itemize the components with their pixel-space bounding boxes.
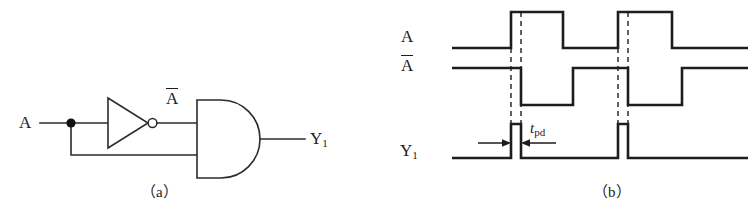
caption-a: （a）: [141, 180, 178, 201]
tpd-arrow-right-head: [521, 139, 530, 147]
figure-root: A A Y1 （a）: [0, 0, 755, 210]
signal-Y1-letter: Y: [400, 141, 412, 160]
signal-A-bar-letter: A: [401, 56, 413, 75]
signal-label-Y1: Y1: [400, 142, 418, 161]
dashed-guides-group: [511, 12, 628, 150]
circuit-inverter-output-label: A: [166, 88, 178, 107]
tpd-arrows-group: [478, 139, 556, 147]
junction-dot: [66, 118, 75, 127]
tpd-label: tpd: [530, 120, 545, 138]
circuit-output-label: Y1: [310, 130, 328, 149]
overbar-wrapper: A: [166, 88, 178, 107]
caption-b: （b）: [593, 180, 631, 201]
circuit-panel: A A Y1 （a）: [0, 0, 380, 210]
timing-panel: A A Y1 tpd （b）: [375, 0, 755, 210]
signal-label-A-bar: A: [401, 55, 413, 74]
tpd-arrow-left-head: [502, 139, 511, 147]
signal-label-A: A: [401, 28, 413, 45]
inverter-output-letter: A: [166, 89, 178, 108]
inverter-bubble: [148, 119, 157, 128]
waveform-A: [452, 12, 748, 48]
timing-diagram: [375, 0, 755, 210]
inverter-gate: [108, 98, 148, 148]
output-subscript: 1: [322, 137, 328, 149]
circuit-input-label: A: [19, 114, 31, 131]
signal-Y1-subscript: 1: [412, 149, 418, 161]
waveform-A-bar: [452, 68, 748, 105]
tpd-subscript: pd: [534, 126, 545, 138]
output-letter: Y: [310, 129, 322, 148]
circuit-schematic: [0, 0, 380, 210]
waveform-Y1: [452, 124, 748, 158]
overbar-wrapper-signal: A: [401, 55, 413, 74]
and-gate: [197, 100, 260, 178]
